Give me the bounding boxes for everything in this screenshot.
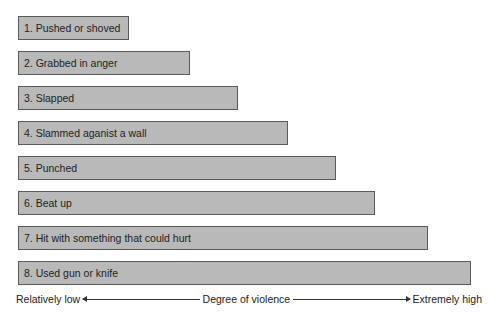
axis-title: Degree of violence <box>203 293 291 305</box>
right-arrow-icon <box>293 299 409 300</box>
bar-3-label: 3. Slapped <box>24 92 74 104</box>
bar-5: 5. Punched <box>18 156 336 180</box>
bar-2-label: 2. Grabbed in anger <box>24 57 117 69</box>
bar-5-label: 5. Punched <box>24 162 77 174</box>
axis-high-label: Extremely high <box>413 293 482 305</box>
bar-4: 4. Slammed aganist a wall <box>18 121 288 145</box>
bar-8-label: 8. Used gun or knife <box>24 267 118 279</box>
bar-4-label: 4. Slammed aganist a wall <box>24 127 147 139</box>
violence-axis: Relatively low Degree of violence Extrem… <box>16 291 482 307</box>
bar-6-label: 6. Beat up <box>24 197 72 209</box>
bar-2: 2. Grabbed in anger <box>18 51 190 75</box>
bar-1-label: 1. Pushed or shoved <box>24 22 120 34</box>
bar-6: 6. Beat up <box>18 191 375 215</box>
bar-8: 8. Used gun or knife <box>18 261 471 285</box>
left-arrow-icon <box>83 299 199 300</box>
bar-7-label: 7. Hit with something that could hurt <box>24 232 191 244</box>
bar-3: 3. Slapped <box>18 86 238 110</box>
bar-7: 7. Hit with something that could hurt <box>18 226 428 250</box>
bar-1: 1. Pushed or shoved <box>18 16 129 40</box>
axis-low-label: Relatively low <box>16 293 80 305</box>
